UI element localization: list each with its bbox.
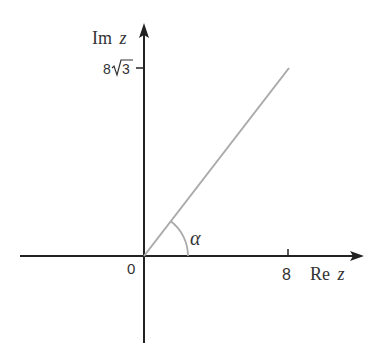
ray-line <box>144 68 289 256</box>
angle-label: α <box>190 227 201 249</box>
complex-plane-diagram: α 0 8 Re z Im z 8 3 <box>0 0 377 350</box>
x-tick-label-8: 8 <box>282 266 291 283</box>
angle-arc <box>171 221 188 256</box>
diagram-svg: α 0 8 Re z Im z 8 3 <box>0 0 377 350</box>
x-axis-label-var: z <box>337 264 345 284</box>
y-tick-label-coef: 8 <box>103 61 111 77</box>
x-axis-label: Re z <box>310 264 345 284</box>
y-axis-label-main: Im <box>92 28 112 48</box>
y-axis-label-var: z <box>119 28 127 48</box>
y-tick-label-radicand: 3 <box>122 61 130 77</box>
y-axis-label: Im z <box>92 28 127 48</box>
origin-label: 0 <box>127 260 135 277</box>
x-axis-label-main: Re <box>310 264 330 284</box>
